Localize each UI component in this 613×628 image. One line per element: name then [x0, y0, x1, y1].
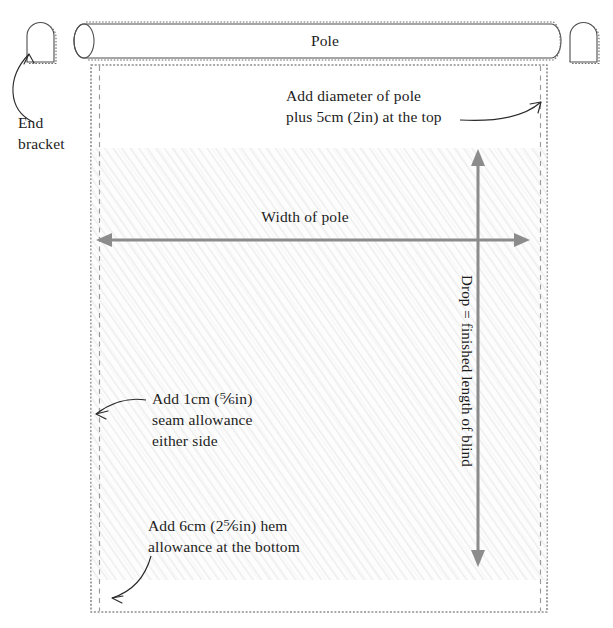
end-bracket-label-line1: End — [18, 114, 44, 131]
top-allowance-annotation — [460, 102, 541, 120]
end-bracket-annotation — [13, 54, 34, 122]
hem-allowance-label-line1: Add 6cm (2⅚in) hem — [148, 517, 288, 535]
right-end-bracket — [570, 23, 599, 64]
blind-measuring-diagram: Pole Width of pole — [0, 0, 613, 628]
seam-allowance-label-line3: either side — [152, 432, 218, 449]
diagram-canvas: Pole Width of pole — [0, 0, 613, 628]
end-bracket-label-line2: bracket — [18, 135, 65, 152]
drop-label: Drop = finished length of blind — [459, 275, 475, 467]
top-allowance-label-line1: Add diameter of pole — [286, 87, 421, 104]
pole-label: Pole — [311, 32, 339, 49]
seam-allowance-label-line2: seam allowance — [152, 411, 253, 428]
hem-allowance-label-line2: allowance at the bottom — [148, 538, 300, 555]
seam-allowance-label-line1: Add 1cm (⅚in) — [152, 390, 252, 408]
top-allowance-label-line2: plus 5cm (2in) at the top — [286, 108, 442, 126]
width-of-pole-label: Width of pole — [261, 208, 348, 225]
